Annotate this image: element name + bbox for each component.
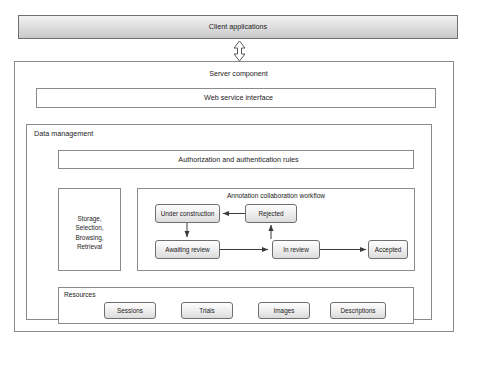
data-management-label: Data management	[34, 130, 93, 138]
resources-label: Resources	[64, 291, 96, 299]
workflow-node-awaiting-review[interactable]: Awaiting review	[155, 240, 220, 259]
architecture-diagram: Client applications Server component Web…	[0, 0, 477, 392]
double-headed-vertical-arrow-icon	[231, 40, 248, 62]
resource-chip-sessions[interactable]: Sessions	[104, 302, 156, 319]
resource-chip-trials[interactable]: Trials	[181, 302, 233, 319]
workflow-node-rejected[interactable]: Rejected	[245, 204, 297, 223]
client-applications-bar: Client applications	[18, 15, 458, 39]
workflow-node-in-review[interactable]: In review	[272, 240, 320, 259]
client-applications-label: Client applications	[19, 23, 457, 31]
authorization-rules-label: Authorization and authentication rules	[0, 156, 477, 164]
workflow-node-under-construction[interactable]: Under construction	[155, 204, 220, 223]
annotation-collaboration-workflow-title: Annotation collaboration workflow	[137, 192, 415, 200]
resource-chip-images[interactable]: Images	[258, 302, 310, 319]
storage-selection-browsing-retrieval-label: Storage,Selection,Browsing,Retrieval	[58, 214, 121, 251]
workflow-node-accepted[interactable]: Accepted	[368, 240, 408, 259]
web-service-interface-label: Web service interface	[0, 94, 477, 102]
server-component-label: Server component	[0, 70, 477, 78]
resource-chip-descriptions[interactable]: Descriptions	[330, 302, 386, 319]
